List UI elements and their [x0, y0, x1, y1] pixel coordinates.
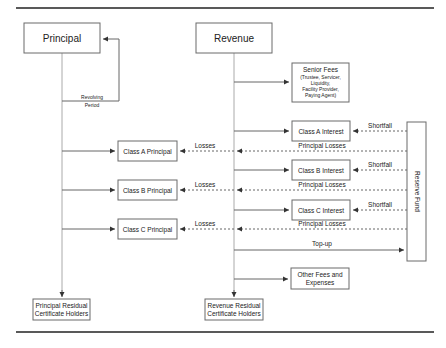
other-fees-node: Other Fees and Expenses: [291, 268, 349, 289]
shortfall-c-label: Shortfall: [368, 201, 392, 208]
svg-text:Senior Fees: Senior Fees: [303, 66, 339, 73]
svg-text:Class C Principal: Class C Principal: [123, 226, 173, 234]
waterfall-diagram: Principal Revolving Period Revenue Senio…: [0, 0, 446, 348]
principal-residual-node: Principal Residual Certificate Holders: [33, 299, 90, 320]
principal-losses-b-label: Principal Losses: [298, 181, 346, 189]
svg-text:Class C Interest: Class C Interest: [298, 207, 344, 214]
svg-text:Class B Interest: Class B Interest: [298, 167, 344, 174]
svg-text:Certificate Holders: Certificate Holders: [207, 310, 261, 317]
class-a-principal-node: Class A Principal: [118, 141, 177, 161]
shortfall-b-label: Shortfall: [368, 161, 392, 168]
revenue-residual-node: Revenue Residual Certificate Holders: [205, 299, 263, 320]
top-up-label: Top-up: [312, 240, 332, 248]
senior-fees-node: Senior Fees (Trustee, Servicer, Liquidit…: [292, 63, 349, 102]
class-c-interest-node: Class C Interest: [292, 200, 350, 220]
principal-losses-c-label: Principal Losses: [298, 220, 346, 228]
svg-text:Revenue Residual: Revenue Residual: [207, 302, 261, 309]
losses-b-label: Losses: [195, 181, 216, 188]
class-b-interest-node: Class B Interest: [292, 160, 350, 180]
svg-text:Reserve Fund: Reserve Fund: [414, 171, 421, 212]
class-c-principal-node: Class C Principal: [118, 219, 177, 239]
svg-text:Revenue: Revenue: [214, 33, 254, 44]
class-a-interest-node: Class A Interest: [292, 121, 350, 141]
svg-text:Period: Period: [85, 102, 100, 108]
svg-text:Revolving: Revolving: [81, 94, 103, 100]
svg-text:Other Fees and: Other Fees and: [297, 271, 343, 278]
class-b-principal-node: Class B Principal: [118, 180, 177, 200]
shortfall-a-label: Shortfall: [368, 122, 392, 129]
svg-text:Principal Residual: Principal Residual: [35, 302, 88, 310]
svg-text:Class A Interest: Class A Interest: [298, 128, 343, 135]
svg-text:Paying Agent): Paying Agent): [305, 92, 336, 98]
revenue-node: Revenue: [196, 23, 272, 53]
principal-losses-a-label: Principal Losses: [298, 142, 346, 150]
principal-node: Principal: [24, 23, 100, 53]
losses-a-label: Losses: [195, 142, 216, 149]
reserve-fund-node: Reserve Fund: [407, 122, 426, 261]
svg-text:Class B Principal: Class B Principal: [123, 187, 173, 195]
svg-text:Class A Principal: Class A Principal: [123, 148, 172, 156]
losses-c-label: Losses: [195, 220, 216, 227]
svg-text:Expenses: Expenses: [306, 279, 335, 287]
svg-text:Certificate Holders: Certificate Holders: [35, 310, 89, 317]
svg-text:Principal: Principal: [43, 33, 81, 44]
